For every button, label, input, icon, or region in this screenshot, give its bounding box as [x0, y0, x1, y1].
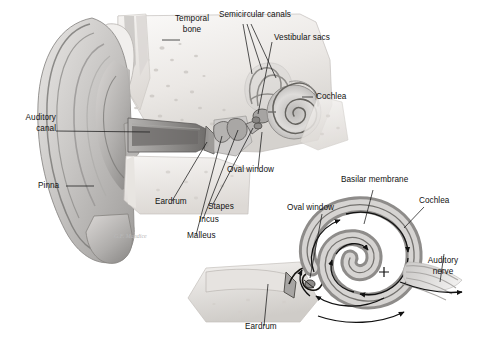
- label-eardrum-upper: Eardrum: [155, 197, 187, 207]
- label-temporal-bone-line2: bone: [164, 25, 220, 36]
- ear-anatomy-figure: Temporal bone Semicircular canals Vestib…: [0, 0, 481, 344]
- label-auditory-canal-line1: Auditory: [8, 113, 56, 124]
- label-auditory-canal-line2: canal: [8, 124, 56, 135]
- label-auditory-nerve-line1: Auditory: [420, 256, 466, 267]
- label-semicircular-canals: Semicircular canals: [219, 10, 291, 20]
- label-pinna: Pinna: [38, 181, 59, 191]
- label-cochlea-lower: Cochlea: [419, 196, 449, 206]
- label-auditory-nerve: Auditory nerve: [420, 256, 466, 277]
- label-temporal-bone-line1: Temporal: [164, 14, 220, 25]
- label-vestibular-sacs: Vestibular sacs: [274, 33, 330, 43]
- label-auditory-nerve-line2: nerve: [420, 267, 466, 278]
- upper-panel-artwork: [38, 14, 348, 263]
- label-oval-window-lower: Oval window: [287, 203, 334, 213]
- label-temporal-bone: Temporal bone: [164, 14, 220, 35]
- label-eardrum-lower: Eardrum: [245, 322, 277, 332]
- label-stapes: Stapes: [208, 202, 234, 212]
- label-cochlea-upper: Cochlea: [316, 92, 346, 102]
- label-basilar-membrane: Basilar membrane: [341, 175, 408, 185]
- label-incus: Incus: [199, 215, 219, 225]
- label-oval-window-upper: Oval window: [227, 165, 274, 175]
- label-auditory-canal: Auditory canal: [8, 113, 56, 134]
- helicotrema-mark: [379, 267, 389, 277]
- label-malleus: Malleus: [187, 231, 216, 241]
- artist-signature: G.F. Mandice: [114, 233, 147, 239]
